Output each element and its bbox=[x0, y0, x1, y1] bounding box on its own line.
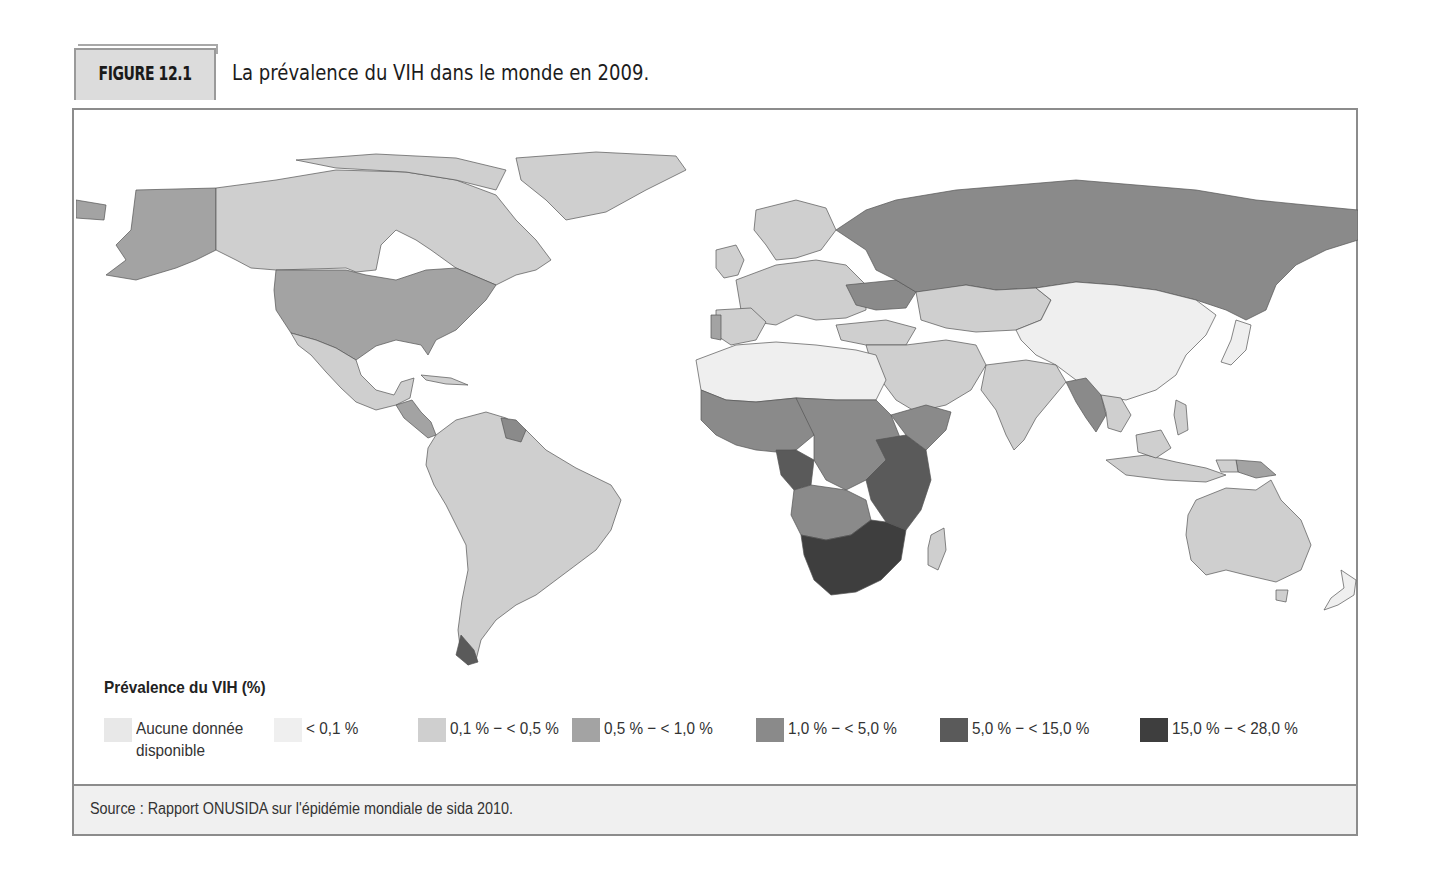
map-region-north-africa bbox=[696, 342, 886, 402]
legend-item-0-5-to-1-0: 0,5 % − < 1,0 % bbox=[572, 718, 725, 742]
map-region-south-america bbox=[426, 412, 621, 665]
legend-label: Aucune donnée bbox=[136, 718, 243, 740]
map-region-alaska bbox=[106, 188, 216, 280]
legend-label: 5,0 % − < 15,0 % bbox=[972, 718, 1089, 740]
legend-label: 1,0 % − < 5,0 % bbox=[788, 718, 897, 740]
legend-swatch bbox=[940, 718, 968, 742]
legend-label: < 0,1 % bbox=[306, 718, 358, 740]
map-region-indonesia bbox=[1106, 455, 1226, 482]
map-region-png bbox=[1236, 460, 1276, 478]
world-map bbox=[76, 150, 1358, 750]
figure-label-tab: FIGURE 12.1 bbox=[74, 48, 216, 100]
legend-swatch bbox=[104, 718, 132, 742]
legend-item-5-0-to-15-0: 5,0 % − < 15,0 % bbox=[940, 718, 1102, 742]
legend-item-0-1-to-0-5: 0,1 % − < 0,5 % bbox=[418, 718, 571, 742]
map-region-turkey bbox=[836, 320, 916, 345]
map-region-philippines bbox=[1174, 400, 1188, 435]
map-region-cameroon-gabon bbox=[776, 450, 814, 490]
map-region-alaska-west bbox=[76, 200, 106, 220]
legend-swatch bbox=[756, 718, 784, 742]
map-region-cuba bbox=[421, 375, 468, 385]
legend-item-lt-0-1: < 0,1 % bbox=[274, 718, 364, 742]
legend-swatch bbox=[572, 718, 600, 742]
map-region-tasmania bbox=[1276, 590, 1288, 602]
map-region-new-zealand bbox=[1324, 570, 1356, 610]
legend-title: Prévalence du VIH (%) bbox=[104, 678, 266, 698]
world-map-svg bbox=[76, 150, 1358, 750]
map-region-uk-ireland bbox=[716, 245, 744, 278]
figure-label: FIGURE 12.1 bbox=[88, 62, 201, 84]
map-region-borneo bbox=[1136, 430, 1171, 458]
figure-frame: Prévalence du VIH (%) Aucune donnée disp… bbox=[72, 108, 1358, 836]
map-region-india bbox=[981, 360, 1066, 450]
legend-label: 0,5 % − < 1,0 % bbox=[604, 718, 713, 740]
source-text: Source : Rapport ONUSIDA sur l'épidémie … bbox=[90, 800, 513, 818]
legend-swatch bbox=[418, 718, 446, 742]
map-region-portugal bbox=[711, 315, 721, 340]
legend-item-1-0-to-5-0: 1,0 % − < 5,0 % bbox=[756, 718, 909, 742]
legend-label: 0,1 % − < 0,5 % bbox=[450, 718, 559, 740]
legend-swatch bbox=[1140, 718, 1168, 742]
map-region-japan bbox=[1221, 320, 1251, 365]
legend-swatch bbox=[274, 718, 302, 742]
map-region-west-papua bbox=[1216, 460, 1238, 472]
legend-item-15-0-to-28-0: 15,0 % − < 28,0 % bbox=[1140, 718, 1312, 742]
legend-label: 15,0 % − < 28,0 % bbox=[1172, 718, 1298, 740]
legend-label-line2: disponible bbox=[136, 740, 243, 762]
source-bar: Source : Rapport ONUSIDA sur l'épidémie … bbox=[74, 784, 1356, 834]
map-region-canada bbox=[216, 170, 551, 285]
map-region-greenland bbox=[516, 152, 686, 220]
legend-item-no-data: Aucune donnée disponible bbox=[104, 718, 255, 762]
map-region-australia bbox=[1186, 480, 1311, 582]
map-region-central-america bbox=[396, 400, 436, 438]
map-region-madagascar bbox=[928, 528, 946, 570]
map-region-scandinavia bbox=[754, 200, 836, 260]
figure-title: La prévalence du VIH dans le monde en 20… bbox=[232, 60, 649, 85]
